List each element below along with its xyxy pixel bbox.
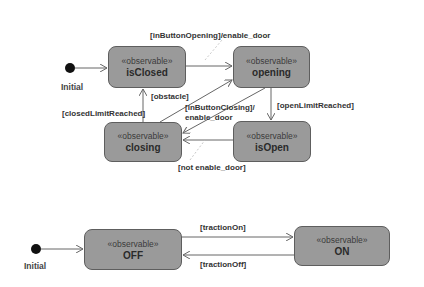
state-isclosed[interactable]: «observable» isClosed [108,46,186,88]
state-isopen[interactable]: «observable» isOpen [233,121,311,162]
stereotype-label: «observable» [316,234,367,246]
state-name: OFF [123,250,143,262]
transition-label-inbuttonclosing: [inButtonClosing]/ [185,103,255,112]
state-name: opening [252,67,291,79]
state-name: closing [125,142,160,154]
stereotype-label: «observable» [246,130,297,142]
transition-label-obstacle: [obstacle] [151,92,189,101]
initial-label-door: Initial [61,82,83,92]
stereotype-label: «observable» [121,55,172,67]
transition-label-tractionon: [tractionOn] [200,223,246,232]
state-closing[interactable]: «observable» closing [104,122,182,162]
edge-decor-dashed2 [205,40,222,60]
state-name: ON [335,246,350,258]
initial-label-traction: Initial [24,261,46,271]
initial-pseudostate-door[interactable] [65,63,75,73]
state-name: isOpen [255,142,289,154]
transition-label-tractionoff: [tractionOff] [200,260,246,269]
initial-pseudostate-traction[interactable] [31,244,41,254]
stereotype-label: «observable» [246,55,297,67]
edge-decor-dashed [190,140,205,160]
transition-label-inbuttonclosing-action: enable_door [185,113,233,122]
state-name: isClosed [126,67,168,79]
state-opening[interactable]: «observable» opening [233,46,310,88]
state-off[interactable]: «observable» OFF [84,229,182,270]
transition-label-inbuttonopening: [inButtonOpening]/enable_door [150,31,270,40]
state-on[interactable]: «observable» ON [294,226,390,266]
transition-label-openlimitreached: [openLimitReached] [277,101,354,110]
stereotype-label: «observable» [117,130,168,142]
transition-label-closedlimitreached: [closedLimitReached] [62,109,145,118]
transition-label-not-enable-door: [not enable_door] [178,163,246,172]
stereotype-label: «observable» [107,238,158,250]
